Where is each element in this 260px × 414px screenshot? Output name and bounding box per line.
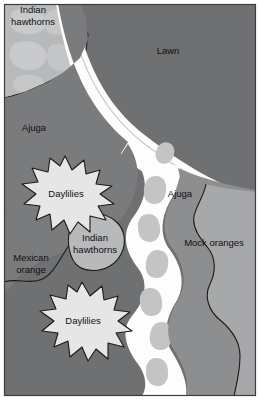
label-mexican-orange: Mexican orange — [13, 252, 48, 275]
label-line: Lawn — [157, 45, 180, 56]
label-line: orange — [16, 264, 46, 275]
label-line: Indian — [20, 4, 46, 15]
label-line: Indian — [82, 232, 108, 243]
label-daylilies-lower: Daylilies — [65, 315, 101, 326]
label-line: Daylilies — [65, 315, 101, 326]
label-line: Daylilies — [48, 188, 84, 199]
garden-plan-figure: Indian hawthorns Lawn Ajuga Daylilies Aj… — [0, 0, 260, 414]
label-line: Mock oranges — [184, 237, 244, 248]
label-line: Mexican — [13, 252, 48, 263]
label-line: Ajuga — [22, 122, 47, 133]
label-mock-oranges: Mock oranges — [184, 237, 244, 248]
plan-contents — [4, 4, 256, 396]
label-line: Ajuga — [168, 188, 193, 199]
label-ajuga-right: Ajuga — [168, 188, 193, 199]
garden-plan-canvas: Indian hawthorns Lawn Ajuga Daylilies Aj… — [0, 0, 260, 414]
label-line: hawthorns — [11, 16, 55, 27]
label-line: hawthorns — [73, 244, 117, 255]
label-ajuga-left: Ajuga — [22, 122, 47, 133]
label-daylilies-upper: Daylilies — [48, 188, 84, 199]
label-lawn: Lawn — [157, 45, 180, 56]
